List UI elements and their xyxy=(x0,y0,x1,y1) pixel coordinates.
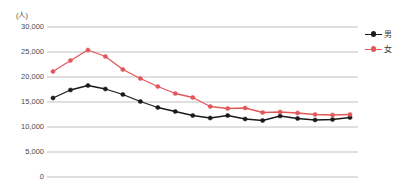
data-point xyxy=(243,117,247,121)
data-point xyxy=(51,96,55,100)
data-point xyxy=(330,117,334,121)
data-point xyxy=(68,58,72,62)
legend-label: 男 xyxy=(384,31,392,39)
y-axis-labels: 30,00025,00020,00015,00010,0005,0000 xyxy=(0,0,44,184)
chart-legend: 男女 xyxy=(365,27,409,57)
series-男 xyxy=(51,83,352,122)
y-axis-tick-label: 5,000 xyxy=(25,148,44,156)
legend-label: 女 xyxy=(384,46,392,54)
data-point xyxy=(103,54,107,58)
data-point xyxy=(313,118,317,122)
data-point xyxy=(51,69,55,73)
plot-svg xyxy=(47,0,358,184)
data-point xyxy=(191,95,195,99)
data-point xyxy=(330,113,334,117)
line-chart: (人) 30,00025,00020,00015,00010,0005,0000… xyxy=(0,0,409,184)
data-point xyxy=(226,106,230,110)
data-point xyxy=(208,104,212,108)
plot-area xyxy=(47,0,358,184)
data-point xyxy=(226,113,230,117)
y-axis-tick-label: 25,000 xyxy=(21,48,44,56)
data-point xyxy=(156,84,160,88)
legend-item[interactable]: 女 xyxy=(365,42,409,57)
data-point xyxy=(295,111,299,115)
data-point xyxy=(261,110,265,114)
data-point xyxy=(243,106,247,110)
data-point xyxy=(138,99,142,103)
data-point xyxy=(68,88,72,92)
legend-marker-icon xyxy=(365,44,382,55)
data-point xyxy=(156,105,160,109)
data-point xyxy=(173,91,177,95)
y-axis-tick-label: 20,000 xyxy=(21,73,44,81)
data-point xyxy=(261,118,265,122)
data-point xyxy=(191,113,195,117)
series-line xyxy=(53,86,350,121)
data-point xyxy=(138,76,142,80)
data-point xyxy=(313,112,317,116)
data-point xyxy=(278,114,282,118)
data-point xyxy=(121,92,125,96)
data-point xyxy=(103,87,107,91)
y-axis-tick-label: 10,000 xyxy=(21,123,44,131)
data-point xyxy=(208,116,212,120)
y-axis-tick-label: 0 xyxy=(40,173,44,181)
series-女 xyxy=(51,48,352,117)
data-point xyxy=(278,110,282,114)
data-point xyxy=(295,116,299,120)
series-line xyxy=(53,50,350,115)
data-point xyxy=(86,48,90,52)
y-axis-tick-label: 30,000 xyxy=(21,23,44,31)
data-point xyxy=(121,67,125,71)
data-point xyxy=(173,109,177,113)
data-point xyxy=(86,83,90,87)
y-axis-tick-label: 15,000 xyxy=(21,98,44,106)
data-point xyxy=(348,112,352,116)
legend-marker-icon xyxy=(365,29,382,40)
legend-item[interactable]: 男 xyxy=(365,27,409,42)
